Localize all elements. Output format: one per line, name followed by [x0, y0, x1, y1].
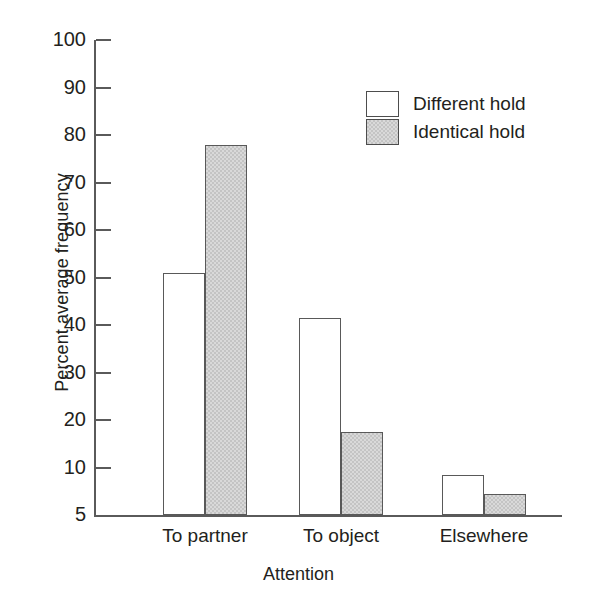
bar-chart-figure: Percent average frequency 10090807060504…: [0, 0, 597, 605]
y-tick-label-20: 20: [0, 409, 86, 429]
legend-label-identical-hold: Identical hold: [413, 121, 525, 143]
bar-elsewhere-identical-hold: [484, 494, 526, 515]
y-tick-label-30: 30: [0, 362, 86, 382]
legend-swatch-different-hold: [366, 91, 399, 117]
y-tick-label-10: 10: [0, 457, 86, 477]
legend-item-different-hold: Different hold: [366, 90, 526, 118]
y-tick-label-40: 40: [0, 314, 86, 334]
y-tick-label-90: 90: [0, 77, 86, 97]
bar-to-partner-different-hold: [163, 273, 205, 515]
x-category-label-elsewhere: Elsewhere: [404, 525, 564, 547]
legend-swatch-identical-hold: [366, 119, 399, 145]
x-axis-title: Attention: [0, 564, 597, 585]
legend-label-different-hold: Different hold: [413, 93, 526, 115]
x-category-label-to-object: To object: [261, 525, 421, 547]
bar-to-object-different-hold: [299, 318, 341, 515]
y-tick-label-100: 100: [0, 29, 86, 49]
bar-to-object-identical-hold: [341, 432, 383, 515]
y-tick-label-70: 70: [0, 172, 86, 192]
y-tick-label-80: 80: [0, 124, 86, 144]
legend-item-identical-hold: Identical hold: [366, 118, 526, 146]
y-tick-label-5: 5: [0, 504, 86, 524]
bar-to-partner-identical-hold: [205, 145, 247, 515]
y-tick-label-60: 60: [0, 219, 86, 239]
legend: Different hold Identical hold: [366, 90, 526, 146]
bar-elsewhere-different-hold: [442, 475, 484, 515]
y-tick-label-50: 50: [0, 267, 86, 287]
